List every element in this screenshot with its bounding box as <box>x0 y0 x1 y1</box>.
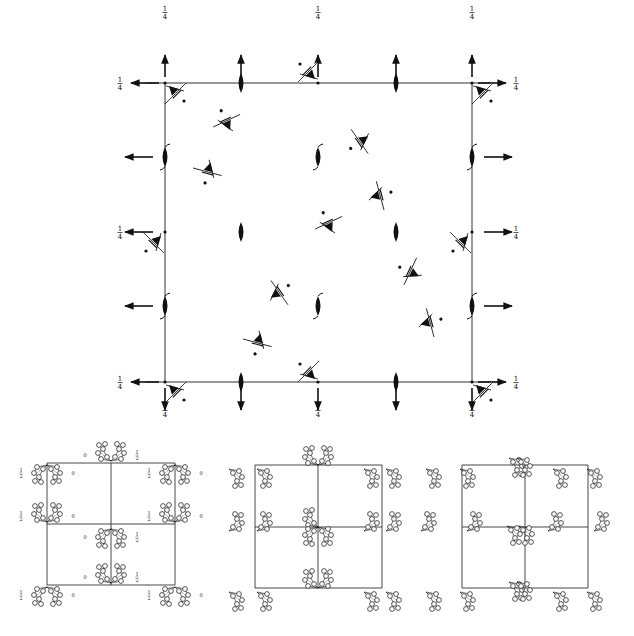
twofold-screw-axis-icon <box>160 293 170 319</box>
molecule-icon <box>303 446 318 466</box>
twofold-screw-axis-icon <box>467 144 477 170</box>
svg-text:4: 4 <box>514 84 519 92</box>
molecule-icon <box>507 526 522 546</box>
molecule-cluster <box>594 512 609 532</box>
fraction-label: 14 <box>163 5 168 21</box>
molecule-icon <box>386 469 401 489</box>
molecule-icon <box>460 592 475 612</box>
svg-text:2: 2 <box>135 537 138 543</box>
svg-text:4: 4 <box>470 13 475 21</box>
svg-text:1: 1 <box>470 5 474 13</box>
molecule-cluster <box>386 592 401 612</box>
twofold-axis-icon <box>239 222 244 242</box>
packing-panel-right <box>421 458 609 612</box>
molecule-icon <box>175 503 190 523</box>
molecule-icon <box>111 442 126 462</box>
molecule-cluster <box>509 458 532 478</box>
threefold-axis-icon <box>397 258 424 285</box>
molecule-icon <box>257 592 272 612</box>
molecule-icon <box>318 446 333 466</box>
svg-text:4: 4 <box>316 13 321 21</box>
molecule-icon <box>303 508 318 528</box>
space-group-symmetry-panel: 141414141414141414141414 <box>118 5 519 419</box>
inversion-center-dot <box>316 380 319 383</box>
molecule-icon <box>96 442 111 462</box>
molecule-cluster <box>507 526 534 546</box>
inversion-center-dot <box>470 380 473 383</box>
molecule-cluster <box>303 446 334 466</box>
svg-text:4: 4 <box>470 411 475 419</box>
molecule-cluster <box>257 469 272 489</box>
molecule-icon <box>175 465 190 485</box>
molecule-cluster <box>364 469 379 489</box>
molecule-icon <box>32 465 47 485</box>
molecule-cluster <box>426 469 441 489</box>
molecule-cluster <box>229 512 244 532</box>
molecule-icon <box>587 592 602 612</box>
inversion-center-dot <box>470 81 473 84</box>
molecule-icon <box>229 592 244 612</box>
svg-text:1: 1 <box>118 76 122 84</box>
molecule-cluster: 120 <box>147 587 202 607</box>
svg-text:2: 2 <box>19 473 22 479</box>
fraction-label: 14 <box>514 76 519 92</box>
molecule-icon <box>175 587 190 607</box>
molecule-icon <box>364 592 379 612</box>
molecule-icon <box>303 527 318 547</box>
fraction-label: 14 <box>470 5 475 21</box>
threefold-axis-icon <box>298 61 319 82</box>
molecule-icon <box>553 469 568 489</box>
molecule-cluster <box>386 469 401 489</box>
threefold-axis-icon <box>450 232 471 253</box>
molecule-cluster <box>460 592 475 612</box>
height-label: 0 <box>71 592 74 598</box>
svg-text:2: 2 <box>147 595 150 601</box>
molecule-cluster <box>386 512 401 532</box>
molecule-cluster <box>257 592 272 612</box>
svg-text:4: 4 <box>163 13 168 21</box>
inversion-center-dot <box>163 380 166 383</box>
molecule-icon <box>32 587 47 607</box>
threefold-axis-icon <box>347 129 371 153</box>
molecule-icon <box>364 512 379 532</box>
molecule-icon <box>587 469 602 489</box>
molecule-icon <box>426 469 441 489</box>
fraction-label: 14 <box>514 375 519 391</box>
molecule-cluster <box>426 592 441 612</box>
molecule-icon <box>467 512 482 532</box>
svg-text:2: 2 <box>147 473 150 479</box>
svg-text:4: 4 <box>316 411 321 419</box>
molecule-icon <box>386 592 401 612</box>
svg-text:1: 1 <box>163 5 167 13</box>
threefold-axis-icon <box>165 382 186 403</box>
svg-text:1: 1 <box>514 225 518 233</box>
packing-panel-left: 120012120120012120012120120 <box>19 442 202 607</box>
molecule-icon <box>386 512 401 532</box>
molecule-icon <box>364 469 379 489</box>
molecule-icon <box>318 569 333 589</box>
molecule-icon <box>318 527 333 547</box>
molecule-cluster: 120 <box>19 587 74 607</box>
inversion-center-dot <box>163 81 166 84</box>
fraction-label: 14 <box>118 76 123 92</box>
unit-cell-outline <box>255 465 382 588</box>
molecule-cluster <box>229 592 244 612</box>
height-label: 0 <box>71 470 74 476</box>
threefold-axis-icon <box>143 232 164 253</box>
threefold-axis-icon <box>472 83 493 104</box>
twofold-screw-axis-icon <box>160 144 170 170</box>
molecule-icon <box>553 592 568 612</box>
svg-text:4: 4 <box>514 383 519 391</box>
height-label: 0 <box>199 470 202 476</box>
svg-text:2: 2 <box>19 595 22 601</box>
molecule-cluster <box>587 469 602 489</box>
molecule-icon <box>47 587 62 607</box>
threefold-axis-icon <box>298 361 319 382</box>
molecule-icon <box>47 503 62 523</box>
molecule-icon <box>303 569 318 589</box>
molecule-cluster <box>509 582 532 602</box>
svg-text:1: 1 <box>514 76 518 84</box>
fraction-label: 14 <box>514 225 519 241</box>
molecule-icon <box>229 469 244 489</box>
threefold-axis-icon <box>193 157 222 186</box>
